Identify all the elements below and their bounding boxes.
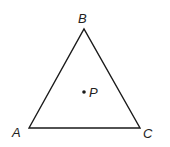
triangle-abc (29, 29, 140, 128)
vertex-label-a: A (11, 125, 21, 140)
vertex-label-c: C (143, 126, 153, 141)
vertex-label-b: B (78, 11, 87, 26)
point-label-p: P (89, 85, 98, 100)
triangle-diagram: A B C P (0, 0, 170, 147)
point-p-dot (82, 90, 86, 94)
